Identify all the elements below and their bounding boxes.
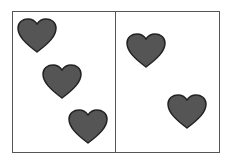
heart-icon: [68, 109, 108, 145]
heart-icon: [42, 64, 82, 100]
heart-icon: [167, 94, 207, 130]
panel-divider: [115, 11, 116, 153]
heart-icon: [17, 18, 57, 54]
heart-icon: [126, 33, 166, 69]
